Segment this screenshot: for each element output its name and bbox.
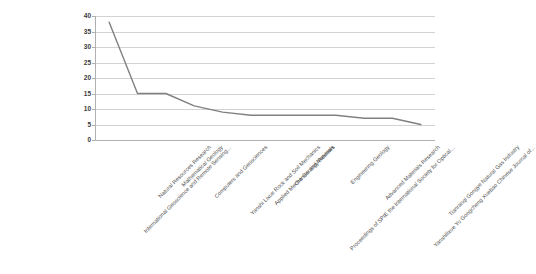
y-axis-tick-label: 35 [84, 28, 91, 35]
y-axis-tick-label: 30 [84, 44, 91, 51]
y-axis-tick-mark [92, 140, 95, 141]
y-axis-tick-label: 25 [84, 59, 91, 66]
series-line-publications [95, 16, 435, 140]
y-axis-tick-label: 20 [84, 75, 91, 82]
y-axis-tick-label: 0 [87, 137, 91, 144]
plot-area: 0510152025303540 [95, 16, 435, 140]
y-axis-tick-label: 40 [84, 13, 91, 20]
x-axis-category-label: Advanced Materials Research [384, 144, 441, 201]
x-axis-category-label: Tianranqi Gongye Natural Gas Industry [447, 144, 520, 217]
x-axis-line [95, 140, 435, 141]
x-axis-category-labels: International Geoscience and Remote Sens… [95, 142, 435, 272]
x-axis-category-label: Engineering Geology [349, 144, 390, 185]
y-axis-tick-label: 10 [84, 106, 91, 113]
y-axis-tick-label: 15 [84, 90, 91, 97]
x-axis-category-label: Yanshilixue Yu Gongcheng Xuebao Chinese … [432, 144, 536, 248]
y-axis-tick-label: 5 [87, 121, 91, 128]
